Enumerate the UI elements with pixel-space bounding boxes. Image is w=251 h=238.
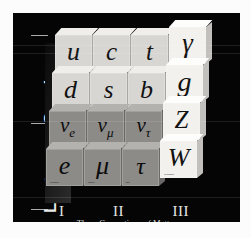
particle-cube-W-boson[interactable]: WW boson (160, 141, 197, 178)
particle-cube-electron[interactable]: eelectron (46, 149, 83, 186)
particle-cube-muon[interactable]: μmuon (84, 149, 121, 186)
particle-symbol: Z (175, 107, 189, 132)
particle-symbol: b (140, 77, 153, 103)
particle-symbol: g (178, 68, 192, 96)
particle-name: tau (126, 181, 129, 184)
particle-name: W boson (164, 173, 174, 176)
particle-name: muon (88, 181, 94, 184)
particle-symbol: W (168, 145, 190, 171)
cube-side-face (197, 136, 203, 178)
cube-front-face: WW boson (160, 141, 197, 178)
particle-symbol-subscript: τ (146, 126, 151, 141)
poster-panel: Quarks Leptons Force Carriers uupccharmt… (13, 13, 240, 222)
particle-symbol: t (146, 39, 153, 64)
particle-symbol-subscript: e (69, 126, 75, 141)
poster-caption: Three Generations of Matter (13, 218, 240, 222)
particle-symbol: γ (182, 30, 193, 57)
left-rail: Quarks Leptons (15, 13, 45, 222)
particle-symbol: d (64, 77, 77, 103)
particle-symbol: e (59, 153, 71, 179)
particle-symbol: u (67, 39, 80, 65)
particle-symbol: νμ (98, 115, 114, 139)
particle-symbol: μ (96, 153, 109, 179)
particle-symbol: τ (136, 154, 145, 178)
cube-front-face: eelectron (46, 149, 83, 186)
poster-canvas: Quarks Leptons Force Carriers uupccharmt… (0, 0, 251, 238)
cube-front-face: μmuon (84, 149, 121, 186)
particle-cube-tau[interactable]: τtau (122, 149, 159, 186)
particle-grid: uupccharmttopddownsstrangebbottomνeelect… (45, 21, 215, 201)
particle-symbol: s (104, 77, 114, 102)
cube-front-face: τtau (122, 149, 159, 186)
particle-name: electron (50, 181, 59, 184)
particle-symbol: ντ (137, 115, 151, 139)
particle-symbol-subscript: μ (107, 126, 114, 141)
particle-symbol: νe (60, 115, 75, 139)
particle-symbol: c (106, 39, 117, 64)
